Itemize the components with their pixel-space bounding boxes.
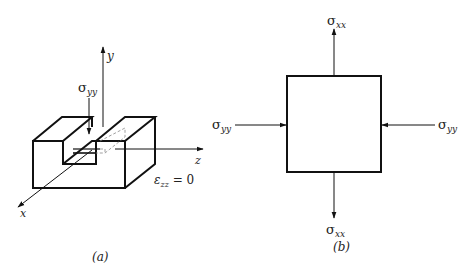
label-left: σyy [212,117,232,134]
label-top: σxx [327,13,346,30]
z-axis-label: z [194,154,201,167]
x-axis-label: x [20,207,27,220]
figure: y z x σyy εzz = 0 (a) σxx σxx [0,0,468,277]
label-bottom: σxx [326,222,345,239]
caption-a: (a) [92,250,109,264]
strain-condition: εzz = 0 [154,173,194,189]
y-axis-label: y [106,49,114,63]
x-axis [18,150,92,207]
stress-element [287,76,381,172]
stress-label-a: σyy [78,80,98,97]
panel-b: σxx σxx σyy σyy (b) [212,13,458,254]
panel-a: y z x σyy εzz = 0 (a) [18,47,203,264]
notched-block [33,117,155,188]
label-right: σyy [438,117,458,134]
caption-b: (b) [333,240,350,254]
